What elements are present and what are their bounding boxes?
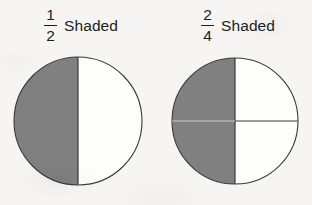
fraction-label-two-quarters: 2 4 Shaded (201, 7, 275, 43)
circle-diagram-half (12, 55, 144, 193)
circle-diagram-two-quarters (170, 56, 300, 192)
fraction-two-fourths: 2 4 (201, 7, 214, 43)
fraction-numerator: 2 (201, 7, 214, 24)
fraction-denominator: 2 (44, 27, 57, 44)
fraction-denominator: 4 (201, 27, 214, 44)
circle-half-right-region (78, 57, 142, 185)
circle-half-shaded-left-region (14, 57, 78, 185)
circle-twoq-shaded-lower-left-quarter (172, 121, 235, 184)
shaded-word-label: Shaded (64, 17, 118, 35)
fraction-bar-icon (44, 25, 57, 26)
circle-two-quarters-svg (170, 56, 300, 188)
circle-twoq-shaded-upper-left-quarter (172, 58, 235, 121)
fraction-bar-icon (201, 25, 214, 26)
fraction-numerator: 1 (44, 7, 57, 24)
circle-half-svg (12, 55, 144, 189)
shaded-word-label: Shaded (221, 17, 275, 35)
fraction-one-half: 1 2 (44, 7, 57, 43)
fraction-label-half: 1 2 Shaded (44, 7, 118, 43)
